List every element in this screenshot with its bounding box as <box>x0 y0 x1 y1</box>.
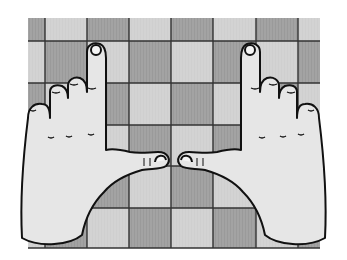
illustration <box>0 0 347 260</box>
